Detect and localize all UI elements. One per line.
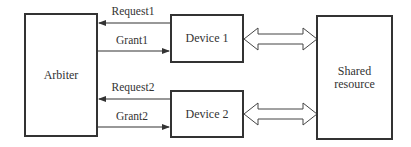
request1-label: Request1 xyxy=(112,5,155,17)
bus1-double-arrow xyxy=(244,28,317,50)
arbiter-label: Arbiter xyxy=(44,69,79,82)
arbiter-block: Arbiter xyxy=(24,13,98,137)
grant1-label: Grant1 xyxy=(116,34,148,46)
device1-block: Device 1 xyxy=(170,14,244,63)
grant2-label: Grant2 xyxy=(116,110,148,122)
request2-label: Request2 xyxy=(112,81,155,93)
shared-resource-label-line2: resource xyxy=(334,78,375,91)
device1-label: Device 1 xyxy=(186,32,229,45)
bus2-double-arrow xyxy=(244,103,317,125)
device2-label: Device 2 xyxy=(186,108,229,121)
shared-resource-label-line1: Shared xyxy=(338,65,371,78)
device2-block: Device 2 xyxy=(170,90,244,138)
shared-resource-block: Shared resource xyxy=(316,15,393,140)
arbiter-diagram: Arbiter Device 1 Device 2 Shared resourc… xyxy=(0,0,411,147)
